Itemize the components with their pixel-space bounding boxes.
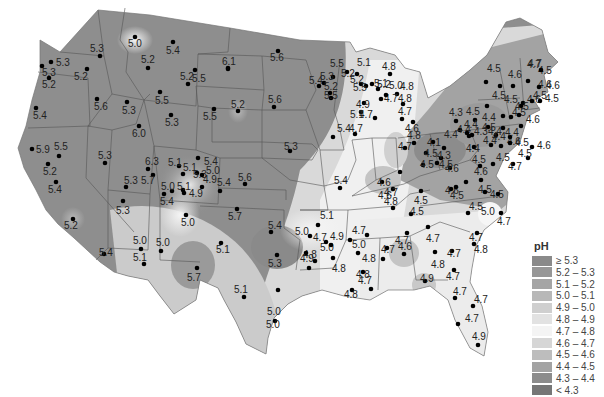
station-ph-label: 5.0 bbox=[267, 306, 281, 317]
station-dot bbox=[316, 223, 321, 228]
station-dot bbox=[103, 161, 108, 166]
station-point bbox=[304, 251, 309, 256]
station-dot bbox=[242, 295, 247, 300]
station-ph-label: 5.4 bbox=[268, 220, 282, 231]
legend-items: ≥ 5.35.2 – 5.35.1 – 5.25.0 – 5.14.9 – 5.… bbox=[528, 255, 604, 396]
station-ph-label: 5.3 bbox=[56, 57, 70, 68]
station-ph-label: 4.8 bbox=[407, 130, 421, 141]
station-ph-label: 5.4 bbox=[334, 175, 348, 186]
station-point: 5.4 bbox=[99, 247, 113, 258]
station-ph-label: 4.7 bbox=[474, 294, 488, 305]
station-ph-label: 4.8 bbox=[344, 289, 358, 300]
station-ph-label: 5.3 bbox=[122, 105, 136, 116]
station-dot bbox=[373, 116, 378, 121]
station-dot bbox=[412, 141, 417, 146]
legend-swatch bbox=[532, 291, 552, 301]
legend-label: ≥ 5.3 bbox=[556, 255, 578, 266]
station-ph-label: 4.9 bbox=[330, 231, 344, 242]
station-point: 4.7 bbox=[398, 141, 412, 152]
station-ph-label: 4.6 bbox=[537, 140, 551, 151]
station-dot bbox=[499, 211, 504, 216]
station-ph-label: 4.8 bbox=[382, 61, 396, 72]
station-dot bbox=[146, 167, 151, 172]
station-point: 5.1 bbox=[168, 157, 182, 168]
station-dot bbox=[193, 68, 198, 73]
station-ph-label: 4.4 bbox=[488, 126, 502, 137]
legend-item: 5.0 – 5.1 bbox=[528, 290, 604, 301]
legend-swatch bbox=[532, 385, 552, 395]
station-ph-label: 5.4 bbox=[33, 110, 47, 121]
station-ph-label: 4.5 bbox=[466, 106, 480, 117]
station-point: 5.7 bbox=[141, 173, 155, 186]
station-dot bbox=[475, 231, 480, 236]
station-point bbox=[226, 66, 231, 71]
station-ph-label: 5.1 bbox=[374, 78, 388, 89]
station-dot bbox=[519, 124, 524, 129]
station-ph-label: 4.6 bbox=[526, 114, 540, 125]
legend-item: 4.7 – 4.8 bbox=[528, 326, 604, 337]
station-dot bbox=[125, 100, 130, 105]
station-ph-label: 4.9 bbox=[203, 174, 217, 185]
station-point: 4.7 bbox=[447, 248, 461, 259]
station-dot bbox=[139, 247, 144, 252]
station-dot bbox=[159, 249, 164, 254]
station-point: 5.5 bbox=[353, 82, 368, 93]
legend-label: 4.5 – 4.6 bbox=[556, 349, 595, 360]
station-ph-label: 4.5 bbox=[420, 159, 434, 170]
station-point: 4.8 bbox=[344, 288, 358, 300]
station-point: 4.5 bbox=[518, 148, 532, 160]
station-point: 4.5 bbox=[420, 159, 434, 170]
station-point: 4.6 bbox=[530, 140, 552, 151]
station-point: 4.9 bbox=[420, 273, 434, 284]
station-dot bbox=[501, 114, 506, 119]
station-point: 5.5 bbox=[324, 90, 338, 101]
station-dot bbox=[433, 250, 438, 255]
station-ph-label: 5.9 bbox=[36, 144, 50, 155]
station-ph-label: 4.5 bbox=[414, 195, 428, 206]
station-ph-label: 5.2 bbox=[74, 71, 88, 82]
station-dot bbox=[307, 266, 312, 271]
station-ph-label: 4.7 bbox=[447, 248, 461, 259]
station-point: 4.7 bbox=[508, 161, 522, 172]
station-ph-label: 4.5 bbox=[439, 159, 453, 170]
station-ph-label: 4.5 bbox=[518, 148, 532, 159]
station-ph-label: 5.5 bbox=[324, 90, 338, 101]
station-ph-label: 5.6 bbox=[238, 172, 252, 183]
station-dot bbox=[171, 40, 176, 45]
station-ph-label: 4.5 bbox=[487, 63, 501, 74]
station-dot bbox=[398, 170, 403, 175]
legend-swatch bbox=[532, 362, 552, 372]
station-ph-label: 5.3 bbox=[124, 175, 138, 186]
station-dot bbox=[369, 287, 374, 292]
station-dot bbox=[329, 243, 334, 248]
station-point: 4.5 bbox=[424, 148, 439, 159]
station-dot bbox=[496, 192, 501, 197]
legend-label: < 4.3 bbox=[556, 385, 579, 396]
station-ph-label: 4.3 bbox=[449, 107, 463, 118]
station-ph-label: 5.0 bbox=[161, 181, 175, 192]
station-dot bbox=[275, 253, 280, 258]
station-ph-label: 5.1 bbox=[168, 157, 182, 168]
station-ph-label: 5.4 bbox=[217, 177, 231, 188]
station-ph-label: 5.0 bbox=[352, 239, 366, 250]
station-ph-label: 5.1 bbox=[357, 57, 371, 68]
station-ph-label: 4.7 bbox=[398, 106, 412, 117]
legend-item: ≥ 5.3 bbox=[528, 255, 604, 266]
station-ph-label: 4.7 bbox=[453, 286, 467, 297]
station-dot bbox=[121, 199, 126, 204]
station-ph-label: 5.2 bbox=[141, 54, 155, 65]
station-ph-label: 5.3 bbox=[165, 117, 179, 128]
station-dot bbox=[511, 84, 516, 89]
station-ph-label: 5.0 bbox=[389, 80, 403, 91]
station-ph-label: 5.6 bbox=[270, 52, 284, 63]
legend-label: 5.2 – 5.3 bbox=[556, 267, 595, 278]
station-ph-label: 5.2 bbox=[231, 99, 245, 110]
station-ph-label: 5.4 bbox=[160, 196, 174, 207]
legend-item: 4.6 – 4.7 bbox=[528, 338, 604, 349]
station-dot bbox=[538, 99, 543, 104]
station-dot bbox=[379, 97, 384, 102]
station-point: 4.1 bbox=[427, 137, 441, 148]
station-ph-label: 4.7 bbox=[359, 109, 373, 120]
station-dot bbox=[454, 185, 459, 190]
